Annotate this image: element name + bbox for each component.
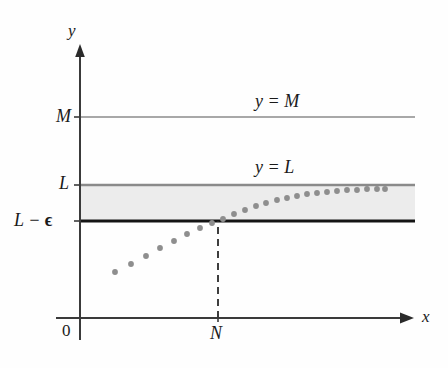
x-axis-arrow-icon [400,313,414,324]
y-tick-label-L-minus-epsilon: L − ϵ [14,211,52,229]
sequence-dot [382,186,388,192]
sequence-dot [274,197,280,203]
y-tick-label-L: L [59,174,69,192]
y-equals-M-label: y = M [255,92,299,110]
y-tick-label-M: M [56,107,71,125]
sequence-dot [197,225,203,231]
L-minus-epsilon-prefix: L − [14,210,45,230]
sequence-dot [220,216,226,222]
sequence-dot [324,189,330,195]
epsilon-band [80,186,415,220]
sequence-dot [284,195,290,201]
sequence-dot [143,253,149,259]
sequence-dot [209,220,215,226]
sequence-dot [128,261,134,267]
x-axis-label: x [422,308,430,325]
sequence-dot [344,187,350,193]
sequence-dot [112,269,118,275]
sequence-dot [242,207,248,213]
x-tick-label-N: N [210,324,222,342]
y-axis-arrow-icon [75,44,85,57]
sequence-dot [253,203,259,209]
sequence-dot [263,200,269,206]
sequence-dot [314,190,320,196]
sequence-dot [354,187,360,193]
sequence-dot [364,186,370,192]
y-axis-label: y [68,22,76,39]
sequence-dot [304,191,310,197]
sequence-dot [231,211,237,217]
sequence-dot [184,231,190,237]
sequence-dot [171,238,177,244]
epsilon-symbol: ϵ [45,210,53,230]
sequence-dot [157,245,163,251]
origin-label: 0 [62,322,71,339]
sequence-dot [374,186,380,192]
figure-canvas: y x 0 M L L − ϵ N y = M y = L [0,0,448,368]
sequence-dot [294,193,300,199]
y-equals-L-label: y = L [255,158,294,176]
sequence-dot [334,188,340,194]
